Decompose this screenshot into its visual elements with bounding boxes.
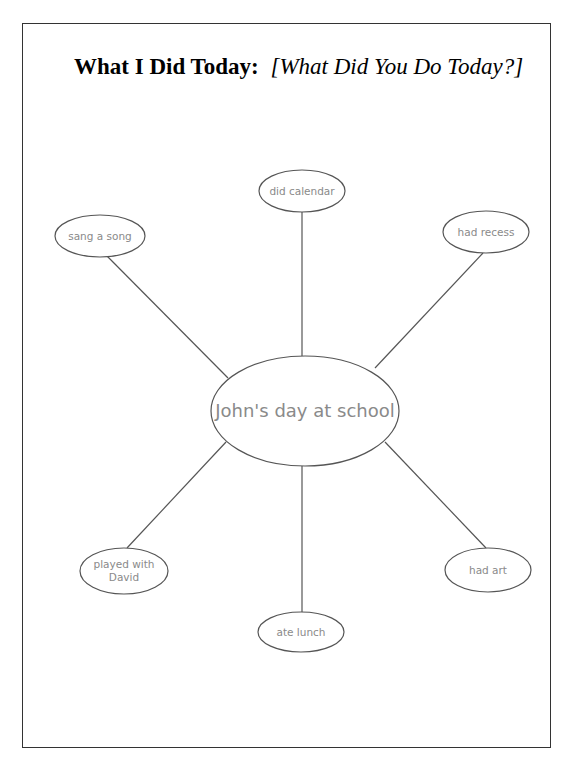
connector-line-played-with-david — [127, 442, 226, 548]
node-label-had-art: had art — [469, 564, 507, 577]
connector-line-had-art — [385, 442, 486, 548]
connector-line-had-recess — [375, 253, 483, 368]
story-web-diagram — [0, 0, 575, 769]
connector-line-sang-a-song — [107, 256, 228, 378]
center-node-label: John's day at school — [215, 400, 395, 422]
node-label-ate-lunch: ate lunch — [276, 626, 325, 639]
node-label-did-calendar: did calendar — [269, 185, 334, 198]
node-label-line-1: played with — [94, 558, 155, 571]
node-label-line-2: David — [94, 571, 155, 584]
node-label-sang-a-song: sang a song — [68, 230, 132, 243]
node-label-had-recess: had recess — [458, 226, 515, 239]
node-label-played-with-david: played with David — [94, 558, 155, 584]
